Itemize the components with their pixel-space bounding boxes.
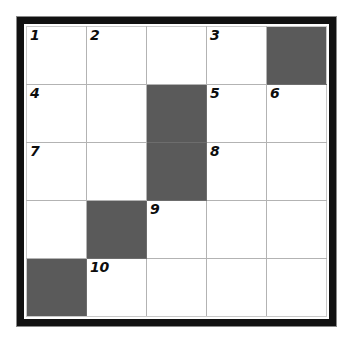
cell-number: 6 <box>270 85 280 102</box>
crossword-cell[interactable]: 1 <box>27 27 87 85</box>
crossword-row: 9 <box>27 201 327 259</box>
crossword-cell[interactable]: 2 <box>87 27 147 85</box>
cell-number: 7 <box>30 143 40 160</box>
crossword-cell[interactable]: 3 <box>207 27 267 85</box>
crossword-grid-body: 12345678910 <box>27 27 327 317</box>
crossword-cell[interactable]: 10 <box>87 259 147 317</box>
cell-number: 8 <box>210 143 220 160</box>
cell-number: 5 <box>210 85 220 102</box>
crossword-cell-blocked <box>267 27 327 85</box>
cell-number: 10 <box>90 259 109 276</box>
crossword-grid-table: 12345678910 <box>26 26 327 317</box>
cell-number: 9 <box>150 201 160 218</box>
crossword-row: 10 <box>27 259 327 317</box>
crossword-cell[interactable] <box>87 85 147 143</box>
crossword-cell[interactable]: 5 <box>207 85 267 143</box>
crossword-cell[interactable] <box>207 201 267 259</box>
cell-number: 4 <box>30 85 40 102</box>
crossword-row: 123 <box>27 27 327 85</box>
crossword-cell[interactable] <box>87 143 147 201</box>
crossword-grid: 12345678910 <box>24 24 329 319</box>
crossword-cell[interactable] <box>267 201 327 259</box>
crossword-row: 456 <box>27 85 327 143</box>
crossword-cell-blocked <box>87 201 147 259</box>
crossword-cell[interactable]: 7 <box>27 143 87 201</box>
crossword-cell[interactable]: 4 <box>27 85 87 143</box>
crossword-cell[interactable] <box>207 259 267 317</box>
crossword-cell[interactable] <box>267 143 327 201</box>
cell-number: 2 <box>90 27 100 44</box>
crossword-cell[interactable]: 6 <box>267 85 327 143</box>
crossword-frame: 12345678910 <box>17 17 336 326</box>
cell-number: 1 <box>30 27 40 44</box>
crossword-cell[interactable]: 9 <box>147 201 207 259</box>
crossword-cell[interactable] <box>27 201 87 259</box>
crossword-row: 78 <box>27 143 327 201</box>
crossword-cell[interactable] <box>147 27 207 85</box>
crossword-cell[interactable] <box>147 259 207 317</box>
crossword-cell-blocked <box>27 259 87 317</box>
crossword-cell-blocked <box>147 143 207 201</box>
crossword-cell-blocked <box>147 85 207 143</box>
crossword-puzzle: 12345678910 <box>0 0 353 344</box>
crossword-cell[interactable] <box>267 259 327 317</box>
cell-number: 3 <box>210 27 220 44</box>
crossword-cell[interactable]: 8 <box>207 143 267 201</box>
